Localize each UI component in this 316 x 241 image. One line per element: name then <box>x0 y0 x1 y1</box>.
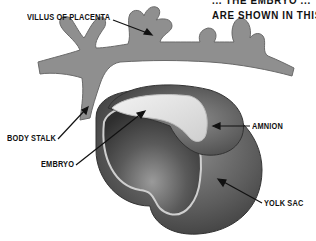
label-body-stalk: BODY STALK <box>7 133 56 143</box>
label-embryo: EMBRYO <box>41 159 74 169</box>
label-villus-of-placenta: VILLUS OF PLACENTA <box>27 12 110 22</box>
caption-line-2: ARE SHOWN IN THIS <box>212 9 316 21</box>
label-yolk-sac: YOLK SAC <box>264 198 303 208</box>
label-amnion: AMNION <box>252 121 283 131</box>
caption-line-1: ... THE EMBRYO ... <box>212 0 311 6</box>
embryo-diagram: ... THE EMBRYO ... ARE SHOWN IN THIS VIL… <box>0 0 316 241</box>
